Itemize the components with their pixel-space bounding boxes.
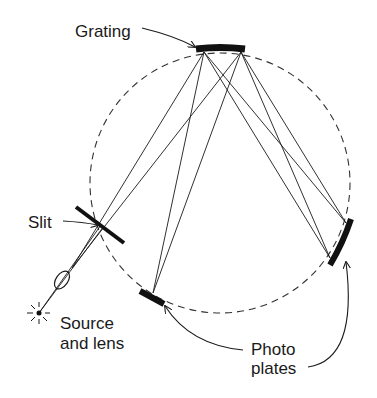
plates-label-line1: Photo <box>251 340 295 359</box>
ray <box>153 52 204 293</box>
ray <box>72 52 204 268</box>
grating-arrow <box>142 28 195 47</box>
rowland-circle <box>90 53 350 313</box>
diffracted-rays-right <box>204 52 346 258</box>
plate-right-arrow <box>308 262 348 367</box>
ray <box>153 52 241 293</box>
source-label-line2: and lens <box>60 334 124 353</box>
source-icon <box>27 302 50 324</box>
ray <box>241 52 330 258</box>
spectrograph-diagram: Grating Slit Source and lens Photo plate… <box>0 0 377 398</box>
photo-plate-right <box>330 219 351 265</box>
incident-rays <box>72 52 241 268</box>
source-rays <box>39 225 104 313</box>
slit-bar <box>76 207 124 243</box>
slit-label: Slit <box>28 213 52 232</box>
ray <box>39 225 101 313</box>
ray <box>204 52 346 223</box>
photo-plate-left <box>140 291 164 304</box>
grating-label: Grating <box>75 22 131 41</box>
source-label-line1: Source <box>60 314 114 333</box>
ray <box>72 52 241 268</box>
grating-bar <box>196 48 245 50</box>
diffracted-rays-left <box>153 52 241 293</box>
plates-label-line2: plates <box>251 359 296 378</box>
ray <box>204 52 330 258</box>
